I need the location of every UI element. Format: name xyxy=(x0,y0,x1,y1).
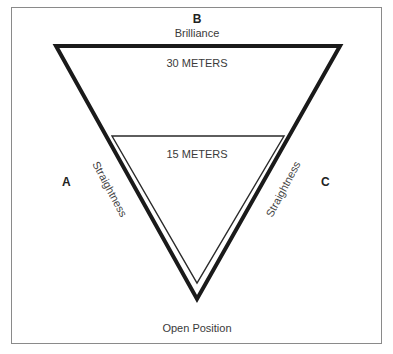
point-b-letter: B xyxy=(193,12,202,26)
brilliance-label: Brilliance xyxy=(175,27,220,39)
point-c-letter: C xyxy=(321,175,330,189)
outer-width-label: 30 METERS xyxy=(166,57,227,69)
point-a-letter: A xyxy=(62,175,71,189)
inner-width-label: 15 METERS xyxy=(166,148,227,160)
inverted-triangle-diagram xyxy=(0,0,393,354)
open-position-label: Open Position xyxy=(162,322,231,334)
